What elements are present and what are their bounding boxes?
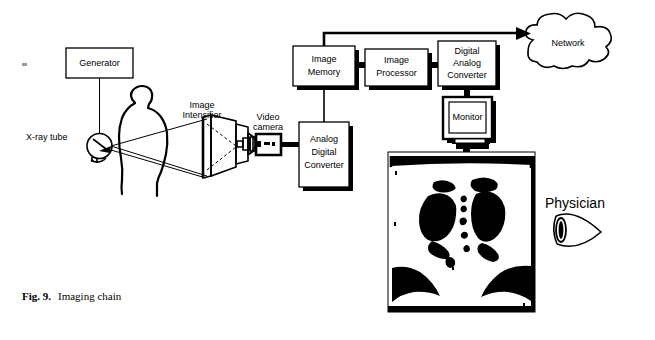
image-intensifier-label-line2: Intensifier	[182, 110, 221, 120]
image-processor-label-line1: Image	[384, 55, 409, 65]
imaging-chain-diagram: Generator X-ray tube	[0, 0, 655, 340]
dac-label-line1: Digital	[454, 46, 479, 56]
image-memory-label-line2: Memory	[308, 67, 341, 77]
image-memory-node: Image Memory	[293, 46, 359, 90]
caption-prefix: Fig. 9.	[22, 290, 51, 302]
xray-beam-cone	[111, 119, 207, 178]
image-processor-node: Image Processor	[365, 49, 432, 90]
digital-analog-converter-node: Digital Analog Converter	[438, 41, 500, 90]
monitor-node: Monitor	[443, 97, 496, 160]
physician-label: Physician	[545, 195, 605, 211]
xray-tube-label: X-ray tube	[26, 132, 68, 142]
network-arrow	[324, 27, 531, 46]
monitor-label: Monitor	[452, 112, 482, 122]
dac-to-monitor-line	[464, 86, 470, 97]
image-memory-label-line1: Image	[311, 54, 336, 64]
video-camera-label-line1: Video	[257, 112, 280, 122]
caption-text: Imaging chain	[58, 290, 122, 302]
chest-radiograph	[388, 152, 535, 312]
adc-label-line3: Converter	[304, 160, 344, 170]
image-intensifier-label-line1: Image	[189, 100, 214, 110]
optical-coupling	[264, 142, 275, 146]
generator-node: Generator	[66, 48, 133, 78]
dac-label-line3: Converter	[447, 70, 487, 80]
video-camera-label-line2: camera	[253, 122, 283, 132]
dac-label-line2: Analog	[453, 58, 481, 68]
analog-digital-converter-node: Analog Digital Converter	[299, 122, 353, 191]
figure-caption: Fig. 9. Imaging chain	[22, 290, 122, 302]
scan-artifact-mark	[22, 63, 27, 66]
adc-label-line1: Analog	[310, 134, 338, 144]
patient-silhouette	[119, 86, 167, 196]
image-processor-label-line2: Processor	[376, 68, 417, 78]
network-label: Network	[551, 38, 585, 48]
figure-page: Generator X-ray tube	[0, 0, 655, 340]
network-cloud-node: Network	[526, 13, 612, 68]
adc-label-line2: Digital	[311, 147, 336, 157]
xray-tube-node	[87, 134, 112, 164]
physician-node: Physician	[545, 195, 605, 246]
generator-label: Generator	[79, 58, 120, 68]
